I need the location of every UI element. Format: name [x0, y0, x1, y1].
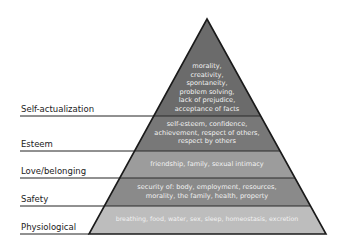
text-line: morality, — [175, 62, 240, 71]
text-line: breathing, food, water, sex, sleep, home… — [116, 215, 299, 224]
love-belonging-text: friendship, family, sexual intimacy — [150, 160, 264, 169]
label-self-actualization: Self-actualization — [21, 104, 94, 114]
text-line: creativity, — [175, 71, 240, 80]
text-line: spontaneity, — [175, 79, 240, 88]
physiological-text: breathing, food, water, sex, sleep, home… — [116, 215, 299, 224]
label-physiological: Physiological — [21, 222, 76, 232]
self-actualization-text: morality, creativity, spontaneity, probl… — [175, 62, 240, 114]
text-line: problem solving, — [175, 88, 240, 97]
label-love-belonging: Love/belonging — [21, 166, 86, 176]
text-line: security of: body, employment, resources… — [137, 183, 276, 192]
text-line: self-esteem, confidence, — [154, 120, 259, 129]
text-line: lack of prejudice, — [175, 96, 240, 105]
label-safety: Safety — [21, 194, 48, 204]
label-esteem: Esteem — [21, 139, 53, 149]
text-line: acceptance of facts — [175, 105, 240, 114]
text-line: morality, the family, health, property — [137, 192, 276, 201]
text-line: respect by others — [154, 137, 259, 146]
esteem-text: self-esteem, confidence, achievement, re… — [154, 120, 259, 146]
safety-text: security of: body, employment, resources… — [137, 183, 276, 200]
text-line: achievement, respect of others, — [154, 129, 259, 138]
text-line: friendship, family, sexual intimacy — [150, 160, 264, 169]
